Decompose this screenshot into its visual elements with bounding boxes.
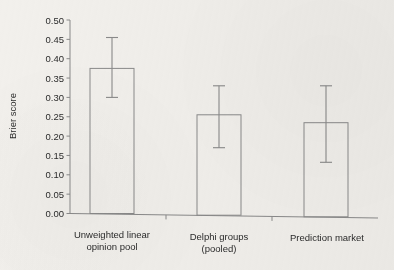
bar-group-delphi-groups-pooled — [197, 86, 241, 215]
y-tick-label: 0.35 — [46, 73, 65, 84]
y-tick-label: 0.50 — [46, 15, 65, 26]
bar-group-unweighted-linear-opinion-pool — [90, 38, 134, 214]
y-tick-label: 0.00 — [46, 208, 65, 219]
category-label-line1: Prediction market — [290, 232, 364, 243]
brier-score-bar-chart: Brier score 0.50 0.45 0.40 0.35 0.30 0.2… — [0, 0, 394, 270]
bar-group-prediction-market — [304, 86, 348, 217]
y-tick-label: 0.15 — [46, 150, 65, 161]
y-tick-label: 0.40 — [46, 53, 65, 64]
y-tick-label: 0.10 — [46, 169, 65, 180]
x-axis-line — [70, 214, 378, 219]
y-tick-label: 0.25 — [46, 111, 65, 122]
y-tick-label: 0.05 — [46, 189, 65, 200]
y-tick-label: 0.20 — [46, 131, 65, 142]
y-axis-tick-marks — [67, 20, 71, 214]
y-tick-label: 0.30 — [46, 92, 65, 103]
category-label-line1: Delphi groups — [190, 231, 249, 242]
y-tick-label: 0.45 — [46, 34, 65, 45]
x-axis-category-labels: Unweighted linear opinion pool Delphi gr… — [74, 229, 364, 254]
y-axis-title: Brier score — [7, 93, 18, 139]
chart-canvas: Brier score 0.50 0.45 0.40 0.35 0.30 0.2… — [0, 0, 394, 270]
y-axis-tick-labels: 0.50 0.45 0.40 0.35 0.30 0.25 0.20 0.15 … — [46, 15, 65, 220]
category-label-line2: opinion pool — [86, 241, 137, 252]
category-label-line2: (pooled) — [202, 243, 237, 254]
category-label-line1: Unweighted linear — [74, 229, 150, 240]
